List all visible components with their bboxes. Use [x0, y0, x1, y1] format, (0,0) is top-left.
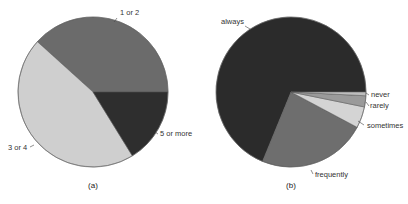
slice-label-never: never: [371, 90, 390, 99]
leader-line-never: [366, 93, 369, 95]
leader-line-rarely: [366, 102, 369, 106]
pie-chart-a: 1 or 23 or 45 or more(a): [8, 8, 192, 190]
leader-line-3-or-4: [30, 145, 34, 147]
slice-label-sometimes: sometimes: [367, 121, 404, 130]
slice-label-3-or-4: 3 or 4: [8, 143, 27, 152]
leader-line-frequently: [311, 170, 313, 174]
slice-label-rarely: rarely: [370, 101, 389, 110]
leader-line-always: [245, 26, 250, 29]
slice-label-5-or-more: 5 or more: [160, 129, 192, 138]
slice-label-1-or-2: 1 or 2: [120, 8, 139, 17]
slice-label-always: always: [221, 17, 244, 26]
figure: 1 or 23 or 45 or more(a) alwaysfrequentl…: [0, 0, 408, 204]
caption-a: (a): [88, 181, 98, 190]
pie-chart-b: alwaysfrequentlysometimesrarelynever(b): [216, 17, 404, 190]
slice-label-frequently: frequently: [315, 170, 348, 179]
caption-b: (b): [286, 181, 296, 190]
